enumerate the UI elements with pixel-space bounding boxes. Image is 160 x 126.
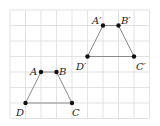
point-d — [23, 101, 27, 105]
point-c — [70, 101, 74, 105]
trapezoid-abcd: A B C D — [15, 66, 80, 118]
label-d-prime: D′ — [75, 61, 87, 72]
label-c-prime: C′ — [136, 61, 147, 72]
trapezoid-a-prime-b-prime-c-prime-d-prime: A′ B′ C′ D′ — [75, 15, 147, 72]
diagram-canvas: A B C D A′ B′ C′ D′ — [0, 0, 160, 126]
label-c: C — [72, 107, 80, 118]
point-d-prime — [85, 54, 89, 58]
label-a: A — [29, 66, 37, 77]
label-b-prime: B′ — [120, 15, 131, 26]
label-d: D — [15, 107, 24, 118]
label-a-prime: A′ — [91, 15, 102, 26]
label-b: B — [58, 66, 66, 77]
point-a — [39, 70, 43, 74]
point-c-prime — [132, 54, 136, 58]
